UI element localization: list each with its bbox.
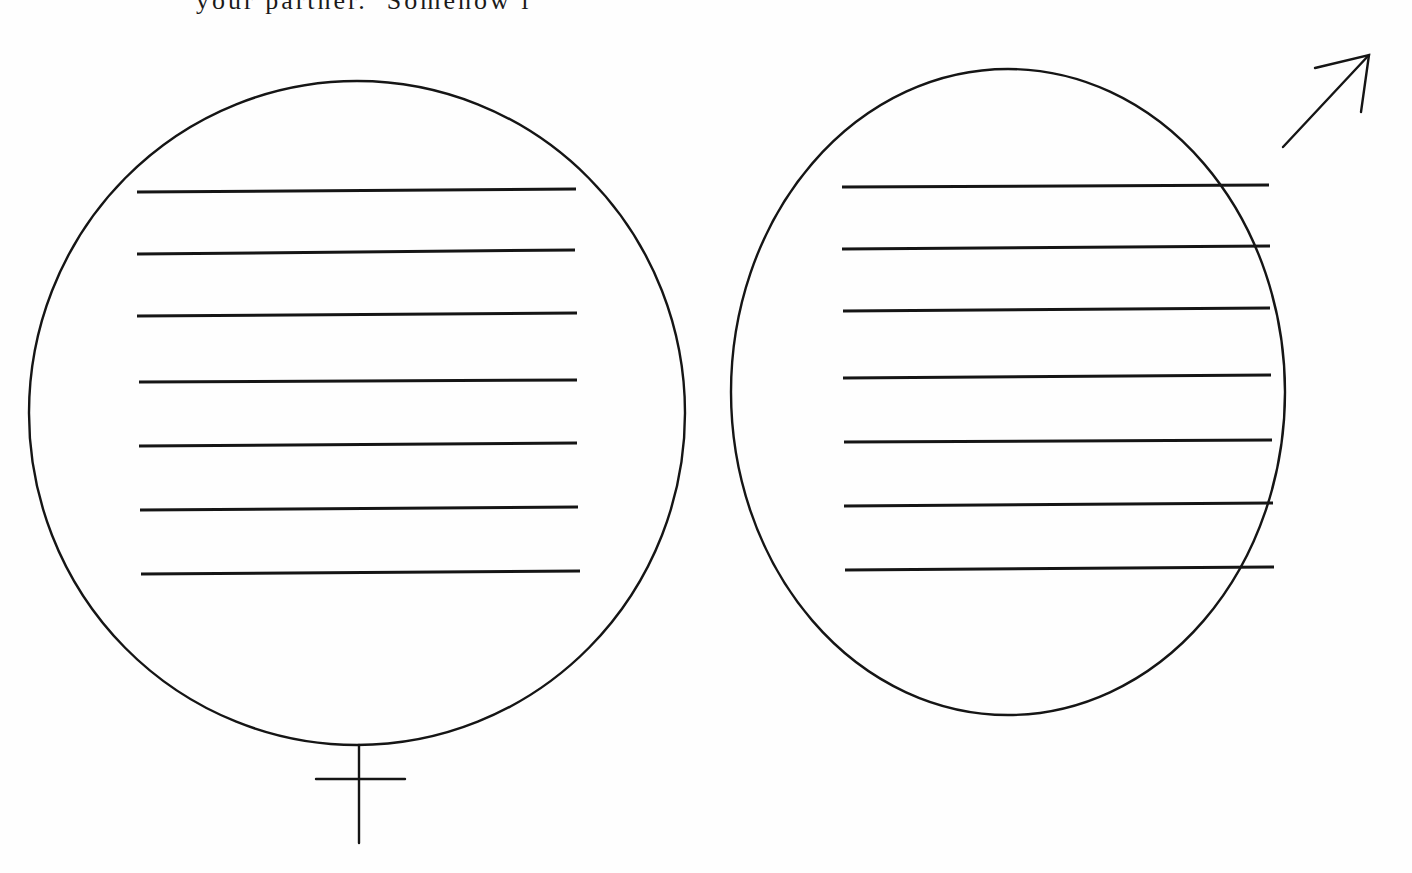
gender-symbols-drawing xyxy=(0,0,1412,873)
male-writing-line-7[interactable] xyxy=(845,567,1274,570)
female-writing-line-4[interactable] xyxy=(139,380,577,382)
female-circle xyxy=(29,81,685,745)
female-writing-lines xyxy=(137,189,580,574)
male-writing-lines xyxy=(842,185,1274,570)
male-symbol xyxy=(731,55,1369,715)
worksheet-page: your partner. Somehow i xyxy=(0,0,1412,873)
male-writing-line-2[interactable] xyxy=(842,246,1270,249)
female-writing-line-2[interactable] xyxy=(137,250,575,254)
female-writing-line-6[interactable] xyxy=(140,507,578,510)
male-writing-line-6[interactable] xyxy=(844,503,1273,506)
male-arrow-shaft xyxy=(1283,55,1369,147)
male-writing-line-4[interactable] xyxy=(843,375,1271,378)
male-writing-line-1[interactable] xyxy=(842,185,1269,187)
male-writing-line-5[interactable] xyxy=(844,440,1272,442)
female-writing-line-5[interactable] xyxy=(139,443,577,446)
female-writing-line-7[interactable] xyxy=(141,571,580,574)
female-writing-line-3[interactable] xyxy=(137,313,577,316)
male-writing-line-3[interactable] xyxy=(843,308,1270,311)
female-symbol xyxy=(29,81,685,843)
female-writing-line-1[interactable] xyxy=(137,189,576,192)
male-circle xyxy=(731,69,1285,715)
